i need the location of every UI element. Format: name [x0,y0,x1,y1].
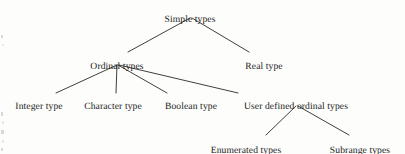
scan-speckle [1,112,3,116]
scan-speckle [1,35,3,38]
tree-node-ordinal: Ordinal types [90,61,143,72]
tree-node-simple: Simple types [164,14,215,25]
scan-speckle [2,140,4,143]
tree-diagram: Simple typesOrdinal typesReal typeIntege… [0,0,405,154]
tree-node-subrange: Subrange types [330,145,390,154]
scan-speckle [1,130,4,134]
scan-speckle [1,148,3,151]
tree-node-real: Real type [245,61,282,72]
tree-node-character: Character type [84,101,142,112]
tree-node-userdef: User defined ordinal types [244,101,348,112]
tree-node-boolean: Boolean type [165,101,217,112]
tree-node-integer: Integer type [15,101,62,112]
tree-node-enumerated: Enumerated types [211,145,282,154]
scan-speckle [2,121,4,124]
scan-speckle [2,44,4,46]
